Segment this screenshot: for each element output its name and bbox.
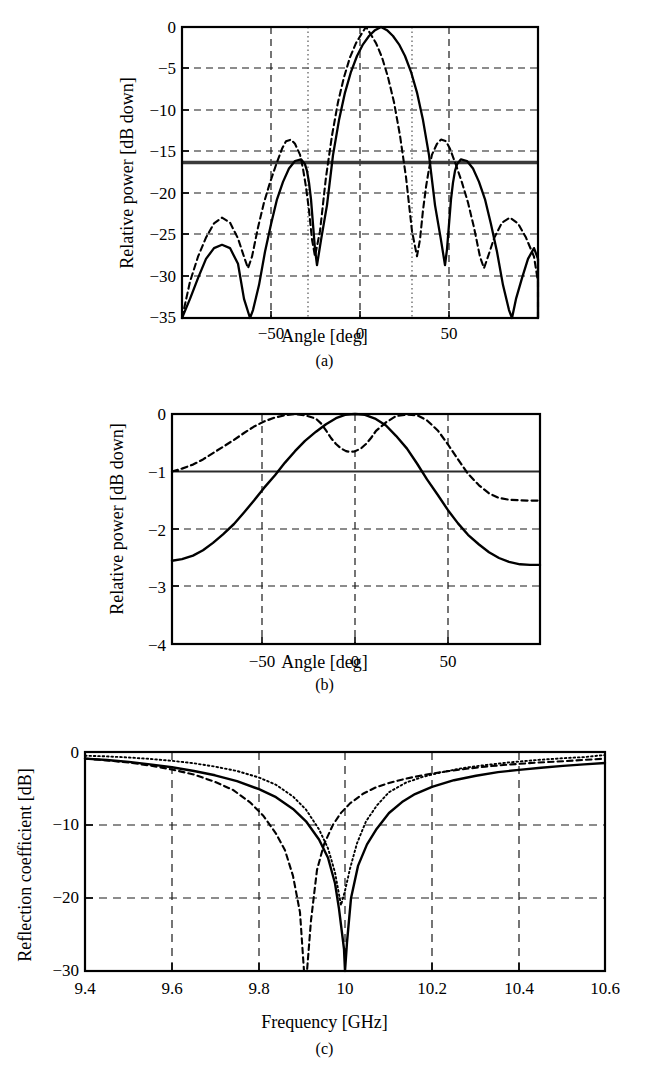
panel-a-ytick-m25: −25	[149, 225, 176, 244]
panel-c-caption: (c)	[0, 1040, 649, 1058]
panel-b-xlabel: Angle [deg]	[281, 652, 367, 672]
panel-c-xtick-104: 10.4	[504, 979, 534, 998]
panel-b-caption: (b)	[0, 676, 649, 694]
panel-b-ytick-m2: −2	[148, 521, 166, 540]
panel-b-axes	[172, 414, 540, 644]
panel-b-ytick-0: 0	[158, 405, 167, 424]
panel-c-plot: Reflection coefficient [dB] 0 −10 −20 −3…	[0, 740, 649, 1030]
figure-container: Relative power [dB down] 0 −5 −10 −15 −2…	[0, 0, 649, 1086]
panel-a-ytick-m20: −20	[149, 184, 176, 203]
panel-c-ytick-m30: −30	[52, 961, 79, 980]
panel-a-ytick-m10: −10	[149, 101, 176, 120]
panel-b-plot: Relative power [dB down] 0 −1 −2 −3 −4 −…	[0, 390, 649, 672]
panel-a-axes	[182, 27, 538, 318]
panel-a-xlabel: Angle [deg]	[281, 326, 367, 346]
panel-c-xtick-98: 9.8	[248, 979, 269, 998]
panel-c-xtick-96: 9.6	[161, 979, 182, 998]
panel-c-ytick-0: 0	[71, 743, 80, 762]
panel-b-ylabel: Relative power [dB down]	[107, 423, 127, 614]
panel-c-ylabel: Reflection coefficient [dB]	[15, 768, 35, 962]
panel-c-gridlines	[85, 752, 605, 971]
panel-a: Relative power [dB down] 0 −5 −10 −15 −2…	[0, 0, 649, 370]
panel-a-gridlines	[182, 27, 538, 318]
panel-c-xtick-10: 10	[337, 979, 354, 998]
panel-a-ticks	[182, 27, 449, 318]
panel-a-ytick-m15: −15	[149, 142, 176, 161]
panel-c-ytick-m10: −10	[52, 815, 79, 834]
panel-c-xtick-94: 9.4	[74, 979, 96, 998]
panel-c-xtick-102: 10.2	[417, 979, 447, 998]
panel-b: Relative power [dB down] 0 −1 −2 −3 −4 −…	[0, 390, 649, 690]
panel-a-ytick-m30: −30	[149, 267, 176, 286]
panel-a-caption: (a)	[0, 352, 649, 370]
panel-c-xtick-106: 10.6	[590, 979, 620, 998]
panel-c-axes	[85, 752, 605, 971]
panel-a-ylabel: Relative power [dB down]	[117, 77, 137, 268]
panel-c-xlabel: Frequency [GHz]	[261, 1012, 387, 1032]
panel-a-ytick-0: 0	[168, 18, 177, 37]
panel-b-dashed-curve	[172, 414, 540, 501]
panel-a-plot: Relative power [dB down] 0 −5 −10 −15 −2…	[0, 0, 649, 348]
panel-a-ytick-m35: −35	[149, 308, 176, 327]
panel-c-ytick-m20: −20	[52, 888, 79, 907]
panel-b-ytick-m1: −1	[148, 463, 166, 482]
panel-c: Reflection coefficient [dB] 0 −10 −20 −3…	[0, 740, 649, 1086]
panel-b-ytick-m3: −3	[148, 578, 166, 597]
panel-a-ytick-m5: −5	[158, 59, 176, 78]
